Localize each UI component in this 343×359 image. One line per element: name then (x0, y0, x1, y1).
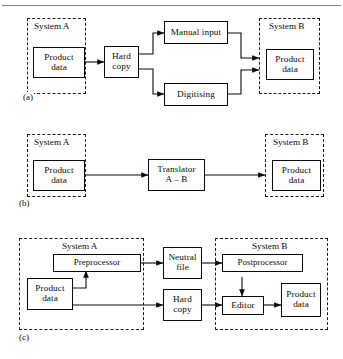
node-c-postprocessor-label: Postprocessor (237, 258, 287, 267)
node-a-hard-copy[interactable]: Hard copy (104, 46, 139, 78)
edge-a-hardcopy-to-digitising (139, 69, 164, 94)
node-c-neutral-file-line2: file (168, 263, 196, 273)
node-c-product-data-src-line2: data (35, 294, 64, 304)
node-b-translator-line2: A – B (157, 175, 195, 185)
node-c-neutral-file[interactable]: Neutral file (163, 247, 202, 279)
edge-a-digitising-to-product (228, 70, 259, 94)
group-label-c-system-a: System A (62, 241, 97, 251)
node-b-translator[interactable]: Translator A – B (148, 159, 205, 191)
node-a-manual-input-label: Manual input (171, 28, 221, 38)
node-a-product-data-src-line2: data (44, 63, 73, 73)
node-a-product-data-dst-line2: data (275, 65, 304, 75)
node-c-editor-label: Editor (231, 301, 255, 311)
node-b-product-data-dst-line2: data (282, 176, 311, 186)
node-c-preprocessor-label: Preprocessor (74, 258, 121, 267)
group-label-a-system-a: System A (34, 21, 69, 31)
node-c-product-data-src[interactable]: Product data (27, 278, 73, 310)
node-a-product-data-dst[interactable]: Product data (266, 49, 314, 80)
node-c-postprocessor[interactable]: Postprocessor (222, 254, 303, 272)
panel-label-b: (b) (18, 198, 31, 208)
node-a-digitising-label: Digitising (177, 90, 215, 100)
group-label-a-system-b: System B (269, 21, 304, 31)
group-label-c-system-b: System B (252, 241, 287, 251)
edge-a-manual-to-product (228, 33, 259, 58)
node-c-hard-copy[interactable]: Hard copy (163, 289, 202, 321)
edge-a-hardcopy-to-manual (139, 33, 164, 54)
node-b-product-data-src-line2: data (44, 176, 73, 186)
node-b-product-data-dst[interactable]: Product data (272, 160, 321, 191)
group-label-b-system-b: System B (273, 137, 308, 147)
node-a-product-data-src[interactable]: Product data (33, 47, 85, 78)
node-c-editor[interactable]: Editor (222, 296, 264, 315)
figure-canvas: System A Product data Hard copy Manual i… (0, 0, 343, 359)
panel-label-a: (a) (22, 92, 34, 102)
node-b-product-data-src[interactable]: Product data (33, 160, 85, 191)
node-a-manual-input[interactable]: Manual input (164, 21, 228, 44)
node-c-product-data-dst[interactable]: Product data (281, 283, 321, 317)
group-label-b-system-a: System A (34, 137, 69, 147)
node-c-hard-copy-line2: copy (173, 305, 192, 315)
node-c-product-data-dst-line2: data (286, 300, 315, 310)
node-a-digitising[interactable]: Digitising (164, 83, 228, 106)
node-c-preprocessor[interactable]: Preprocessor (53, 254, 141, 272)
node-a-hard-copy-line2: copy (112, 62, 131, 72)
panel-label-c: (c) (18, 332, 30, 342)
